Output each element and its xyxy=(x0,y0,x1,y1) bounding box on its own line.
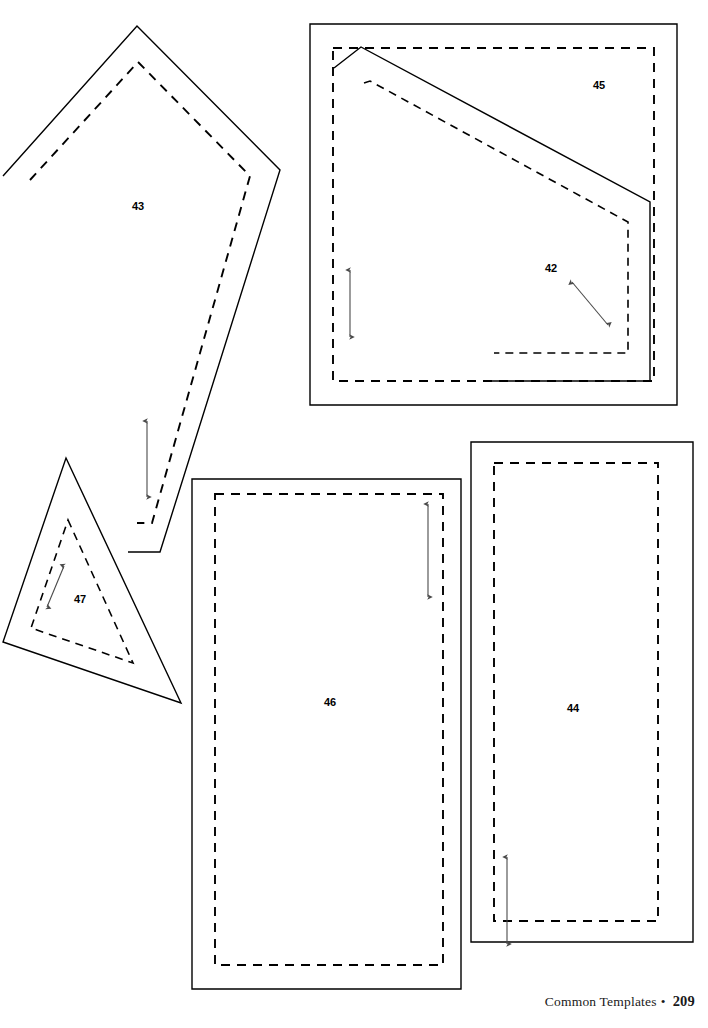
template-43-group[interactable]: 43 xyxy=(3,26,280,552)
footer-separator: • xyxy=(661,994,666,1009)
template-42-seam-line xyxy=(364,81,628,353)
template-42-grain-arrow xyxy=(572,282,608,325)
template-46-seam-line xyxy=(215,494,443,965)
template-46-group[interactable]: 46 xyxy=(192,479,461,989)
template-45-group[interactable]: 45 xyxy=(310,24,677,405)
template-45-label: 45 xyxy=(593,79,605,91)
page-footer: Common Templates•209 xyxy=(545,993,695,1010)
template-47-cut-line xyxy=(3,458,181,703)
template-42-group[interactable]: 42 xyxy=(334,47,650,381)
template-44-cut-line xyxy=(471,442,693,942)
template-44-seam-line xyxy=(494,463,658,921)
template-46-label: 46 xyxy=(324,696,336,708)
template-44-label: 44 xyxy=(567,702,580,714)
footer-title: Common Templates xyxy=(545,994,657,1009)
template-46-cut-line xyxy=(192,479,461,989)
template-44-group[interactable]: 44 xyxy=(471,442,693,944)
template-47-group[interactable]: 47 xyxy=(3,458,181,703)
template-47-seam-line xyxy=(31,520,133,663)
template-page: 43 45 42 47 46 xyxy=(0,0,708,1028)
template-43-seam-line xyxy=(30,62,250,523)
template-43-label: 43 xyxy=(132,200,144,212)
template-43-cut-line xyxy=(3,26,280,552)
sewing-template-diagram: 43 45 42 47 46 xyxy=(0,0,708,1028)
template-42-label: 42 xyxy=(545,262,557,274)
template-45-seam-line xyxy=(333,48,654,381)
template-45-cut-line xyxy=(310,24,677,405)
template-47-label: 47 xyxy=(74,593,86,605)
page-number: 209 xyxy=(673,993,695,1009)
template-42-cut-line xyxy=(334,47,650,381)
